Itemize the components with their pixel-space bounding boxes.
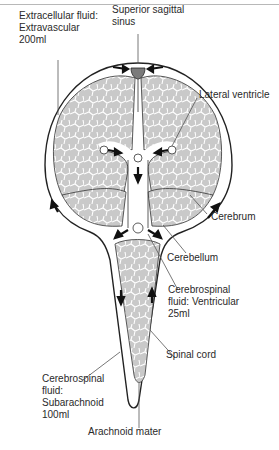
label-lateral-ventricle: Lateral ventricle [199, 89, 270, 101]
label-extracellular-fluid: Extracellular fluid: Extravascular 200ml [19, 10, 98, 46]
label-csf-subarachnoid: Cerebrospinal fluid: Subarachnoid 100ml [42, 373, 104, 421]
label-csf-ventricular: Cerebrospinal fluid: Ventricular 25ml [168, 284, 239, 320]
label-spinal-cord: Spinal cord [166, 349, 216, 361]
label-arachnoid-mater: Arachnoid mater [88, 426, 161, 438]
label-superior-sagittal-sinus: Superior sagittal sinus [112, 4, 184, 28]
label-cerebrum: Cerebrum [211, 211, 255, 223]
label-cerebellum: Cerebellum [167, 252, 218, 264]
